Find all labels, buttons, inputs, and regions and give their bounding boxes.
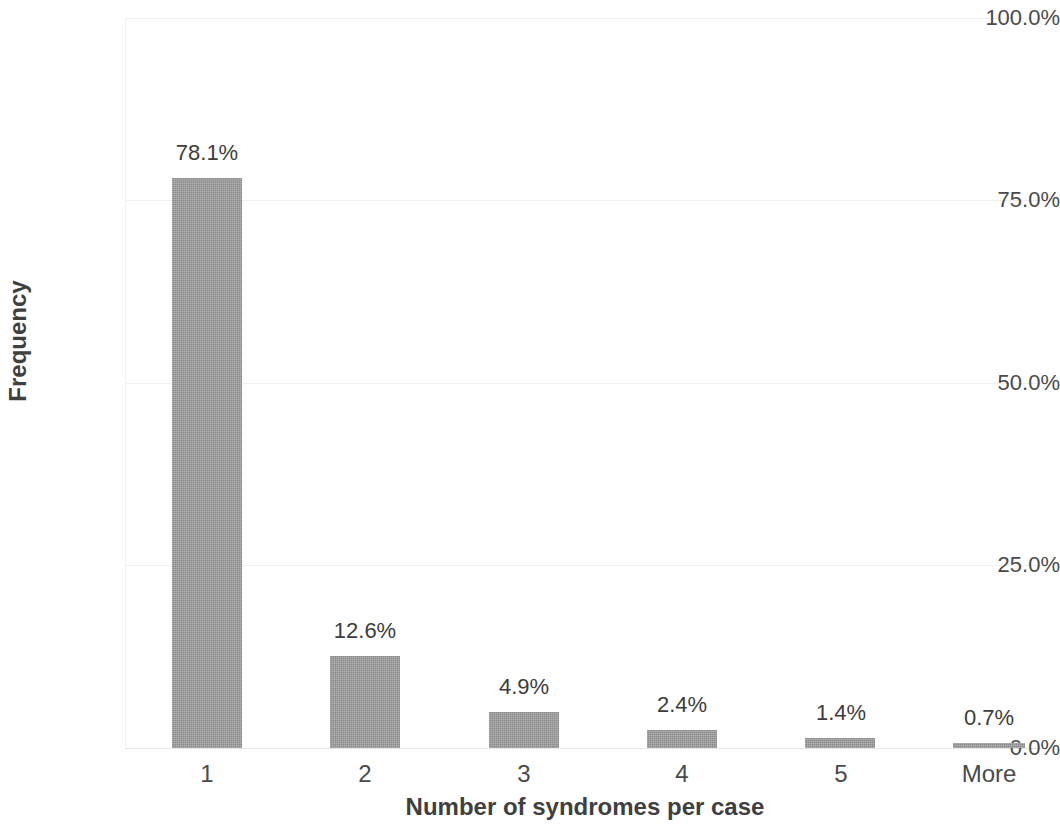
x-tick-label-4: 4 xyxy=(592,760,772,788)
data-label-4: 2.4% xyxy=(592,694,772,716)
x-tick-label-2: 2 xyxy=(275,760,455,788)
bar-more xyxy=(953,743,1025,748)
data-label-3: 4.9% xyxy=(434,676,614,698)
x-tick-label-3: 3 xyxy=(434,760,614,788)
bar-5 xyxy=(805,738,875,748)
bar-1 xyxy=(172,178,242,748)
plot-area: 78.1% 12.6% 4.9% 2.4% 1.4% 0.7% 1 2 3 4 … xyxy=(0,0,1060,827)
data-label-2: 12.6% xyxy=(275,620,455,642)
bar-chart: Frequency 100.0% 75.0% 50.0% 25.0% 0.0% … xyxy=(0,0,1060,827)
x-tick-label-1: 1 xyxy=(117,760,297,788)
bar-3 xyxy=(489,712,559,748)
data-label-1: 78.1% xyxy=(117,142,297,164)
x-axis-title: Number of syndromes per case xyxy=(125,793,1045,821)
x-tick-label-more: More xyxy=(899,760,1060,788)
data-label-more: 0.7% xyxy=(899,707,1060,729)
bar-2 xyxy=(330,656,400,748)
bar-4 xyxy=(647,730,717,748)
